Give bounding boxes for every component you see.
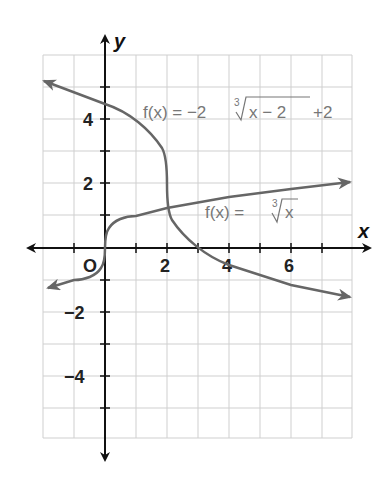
svg-text:x − 2: x − 2 — [249, 103, 286, 122]
x-axis-label: x — [357, 220, 370, 242]
svg-text:+2: +2 — [313, 103, 332, 122]
svg-text:3: 3 — [272, 198, 278, 209]
y-tick-label-2: 2 — [83, 174, 93, 194]
x-tick-label-2: 2 — [160, 256, 170, 276]
svg-text:f(x) = −2: f(x) = −2 — [143, 103, 206, 122]
equation-label-transformed: f(x) = −2 3 x − 2 +2 — [143, 97, 332, 122]
svg-text:f(x) =: f(x) = — [205, 203, 244, 222]
x-tick-label-6: 6 — [284, 256, 294, 276]
svg-text:3: 3 — [234, 97, 240, 108]
y-axis-label: y — [113, 30, 126, 52]
coordinate-plane: y x O 2 4 6 4 2 −2 −4 f(x) = −2 3 x − 2 … — [0, 0, 386, 483]
y-tick-label-neg2: −2 — [64, 303, 85, 323]
equation-label-cube-root: f(x) = 3 x — [205, 198, 298, 222]
y-tick-label-neg4: −4 — [64, 367, 85, 387]
svg-text:x: x — [285, 203, 294, 222]
y-tick-label-4: 4 — [83, 110, 93, 130]
